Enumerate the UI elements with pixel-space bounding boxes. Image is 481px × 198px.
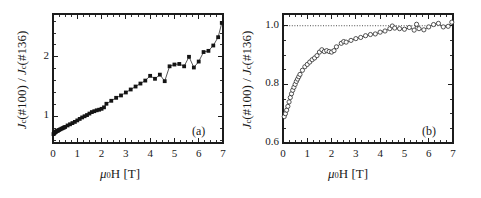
xtick-label: 1 <box>295 147 319 159</box>
yaxis-j2: J <box>239 69 254 75</box>
yaxis-sub1: c <box>18 120 28 124</box>
yaxis-sub2: c <box>18 65 28 69</box>
xtick-label: 5 <box>392 147 416 159</box>
panel-b-tag: (b) <box>422 124 436 139</box>
xtick-label: 6 <box>187 147 211 159</box>
panel-a-yaxis-title: Jc(#100) / Jc(#136) <box>14 15 30 145</box>
panel-b-yaxis-title: Jc(#100) / Jc(#136) <box>239 15 255 145</box>
xtick-label: 0 <box>271 147 295 159</box>
xtick-label: 6 <box>417 147 441 159</box>
yaxis-j1: J <box>14 124 29 130</box>
xaxis-rest: H [T] <box>111 166 140 181</box>
xtick-label: 4 <box>368 147 392 159</box>
yaxis-mid2: (#136) <box>239 31 254 66</box>
yaxis-j1: J <box>239 124 254 130</box>
xtick-label: 0 <box>41 147 65 159</box>
panel-b-xaxis-title: μ0H [T] <box>228 166 468 182</box>
yaxis-mid2: (#136) <box>14 31 29 66</box>
xtick-label: 7 <box>441 147 465 159</box>
yaxis-sub1: c <box>243 120 253 124</box>
yaxis-j2: J <box>14 69 29 75</box>
xtick-label: 5 <box>162 147 186 159</box>
panel-a: 01234567 12 μ0H [T] Jc(#100) / Jc(#136) … <box>0 0 240 198</box>
panel-a-xaxis-title: μ0H [T] <box>0 166 240 182</box>
xtick-label: 2 <box>320 147 344 159</box>
xtick-label: 4 <box>138 147 162 159</box>
panel-b: 01234567 0.60.81.0 μ0H [T] Jc(#100) / Jc… <box>240 0 480 198</box>
yaxis-mid1: (#100) / <box>14 75 29 120</box>
xtick-label: 7 <box>211 147 235 159</box>
xtick-label: 1 <box>65 147 89 159</box>
figure-container: 01234567 12 μ0H [T] Jc(#100) / Jc(#136) … <box>0 0 481 198</box>
panel-b-series <box>282 20 454 119</box>
yaxis-mid1: (#100) / <box>239 75 254 120</box>
xaxis-rest: H [T] <box>339 166 368 181</box>
xtick-label: 2 <box>90 147 114 159</box>
panel-a-tag: (a) <box>192 124 205 139</box>
xtick-label: 3 <box>344 147 368 159</box>
xtick-label: 3 <box>114 147 138 159</box>
panel-a-series <box>52 21 224 136</box>
yaxis-sub2: c <box>243 65 253 69</box>
